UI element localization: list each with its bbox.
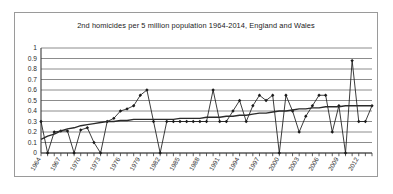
data-point-marker: [46, 151, 49, 154]
x-axis-tick-label: 1991: [207, 156, 220, 172]
y-axis-tick-label: 0.6: [28, 86, 37, 93]
x-axis-tick-label: 1985: [168, 156, 181, 172]
x-axis-tick-label: 1994: [227, 156, 240, 172]
data-point-marker: [211, 88, 214, 91]
x-axis-tick-label: 1970: [68, 156, 81, 172]
y-axis-tick-label: 0.9: [28, 55, 37, 62]
data-point-marker: [79, 128, 82, 131]
data-point-marker: [357, 120, 360, 123]
data-point-marker: [245, 120, 248, 123]
data-point-marker: [278, 151, 281, 154]
x-axis-tick-label: 1973: [88, 156, 101, 172]
data-point-marker: [331, 130, 334, 133]
data-point-marker: [172, 120, 175, 123]
data-point-marker: [158, 151, 161, 154]
y-axis-tick-label: 0.4: [28, 107, 37, 114]
data-point-marker: [344, 151, 347, 154]
data-point-marker: [86, 126, 89, 129]
data-point-marker: [350, 59, 353, 62]
x-axis-tick-label: 2006: [307, 156, 320, 172]
y-axis-tick-label: 1: [33, 44, 37, 51]
data-point-marker: [324, 94, 327, 97]
data-point-marker: [297, 130, 300, 133]
data-point-marker: [205, 120, 208, 123]
y-axis-tick-label: 0.2: [28, 128, 37, 135]
data-point-marker: [192, 120, 195, 123]
y-axis-tick-label: 0.7: [28, 76, 37, 83]
x-axis-tick-label: 1967: [49, 156, 62, 172]
data-point-marker: [125, 107, 128, 110]
data-point-marker: [198, 120, 201, 123]
chart-container: 2nd homicides per 5 million population 1…: [14, 12, 378, 177]
data-point-marker: [218, 120, 221, 123]
y-axis-tick-label: 0.1: [28, 139, 37, 146]
y-axis-tick-label: 0.8: [28, 65, 37, 72]
data-point-marker: [178, 120, 181, 123]
data-point-marker: [39, 120, 42, 123]
data-point-marker: [284, 94, 287, 97]
data-point-marker: [364, 120, 367, 123]
x-axis-tick-label: 2000: [267, 156, 280, 172]
y-axis-tick-label: 0.3: [28, 118, 37, 125]
x-axis-tick-label: 1964: [29, 156, 42, 172]
x-axis-tick-label: 1976: [108, 156, 121, 172]
y-axis-tick-label: 0.5: [28, 97, 37, 104]
x-axis-tick-label: 1979: [128, 156, 141, 172]
data-point-marker: [72, 151, 75, 154]
x-axis-tick-label: 2009: [327, 156, 340, 172]
data-point-marker: [185, 120, 188, 123]
x-axis-tick-label: 1997: [247, 156, 260, 172]
x-axis-tick-label: 1988: [188, 156, 201, 172]
x-axis-tick-label: 1982: [148, 156, 161, 172]
chart-plot: 00.10.20.30.40.50.60.70.80.9119641967197…: [15, 13, 379, 178]
data-point-marker: [152, 120, 155, 123]
x-axis-tick-label: 2012: [346, 156, 359, 172]
x-axis-tick-label: 2003: [287, 156, 300, 172]
data-point-marker: [165, 120, 168, 123]
y-axis-tick-label: 0: [33, 149, 37, 156]
